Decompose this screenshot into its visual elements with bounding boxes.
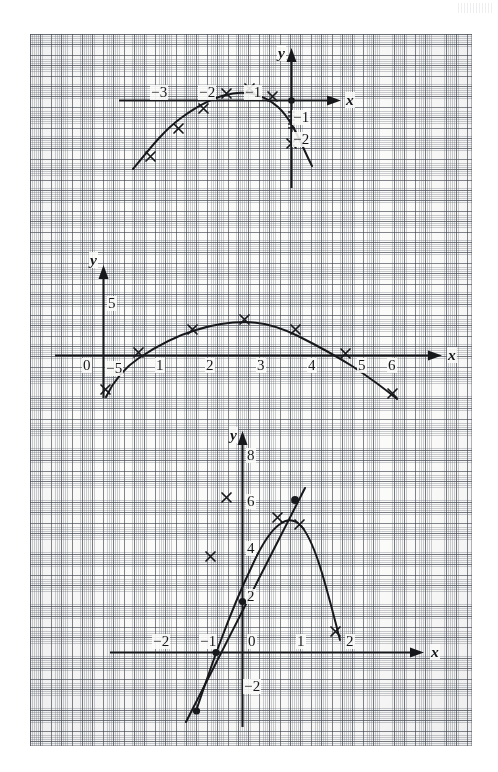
graph-1-y-tick-label-minus1: −1: [292, 110, 310, 125]
graph-3-x-tick-label-minus2: −2: [152, 634, 170, 649]
worksheet-page: y x −3 −2 −1 −1 −2 y x 5 −5 0 1 2 3 4 5 …: [0, 0, 498, 772]
graph-1-y-axis-label: y: [277, 45, 286, 61]
graph-3-x-axis-label: x: [430, 644, 440, 660]
graph-1-x-axis-label: x: [345, 92, 355, 108]
graph-1-x-tick-label-minus3: −3: [150, 85, 168, 100]
graph-2-x-tick-label-2: 2: [205, 358, 215, 373]
graph-3-x-tick-label-1: 1: [296, 634, 306, 649]
graph-2-y-axis-label: y: [89, 252, 98, 268]
graph-3-y-tick-label-minus2: −2: [243, 679, 261, 694]
scan-artifact: [458, 3, 492, 13]
graph-2-y-tick-label-5: 5: [107, 296, 117, 311]
graph-2-x-tick-label-6: 6: [387, 358, 397, 373]
graph-1-x-tick-label-minus1: −1: [244, 85, 262, 100]
graph-1-y-tick-label-minus2: −2: [292, 132, 310, 147]
graph-3-y-tick-label-8: 8: [246, 448, 256, 463]
graph-2-x-tick-label-3: 3: [256, 358, 266, 373]
graph-2-y-tick-label-minus5: −5: [105, 361, 123, 376]
graph-2-x-axis-label: x: [447, 347, 457, 363]
graph-3-x-tick-label-0: 0: [247, 634, 257, 649]
graph-3-y-axis-label: y: [229, 427, 238, 443]
graph-2-x-tick-label-1: 1: [155, 358, 165, 373]
graph-2-x-tick-label-5: 5: [357, 358, 367, 373]
graph-1-x-tick-label-minus2: −2: [198, 85, 216, 100]
graph-3-y-tick-label-2: 2: [246, 589, 256, 604]
graph-3-y-tick-label-6: 6: [246, 494, 256, 509]
graph-2-x-tick-label-4: 4: [307, 358, 317, 373]
graph-3-x-tick-label-2: 2: [345, 634, 355, 649]
graph-3-x-tick-label-minus1: −1: [199, 634, 217, 649]
graph-3-y-tick-label-4: 4: [246, 541, 256, 556]
graph-2-x-tick-label-0: 0: [82, 358, 92, 373]
